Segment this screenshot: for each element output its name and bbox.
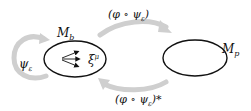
forward-map-label-post: ) — [145, 8, 149, 21]
mb-label: Mb — [57, 27, 74, 42]
xi-label: ξμ — [88, 54, 99, 66]
mp-label-sub: p — [234, 49, 239, 58]
psi-label-sub: ε — [28, 65, 32, 73]
psi-label-main: ψ — [19, 57, 28, 71]
xi-label-sup: μ — [95, 53, 100, 61]
forward-map-label: (φ ∘ ψε) — [108, 9, 149, 23]
pullback-label-post: )* — [152, 93, 162, 106]
vector-field-arrows — [62, 52, 78, 66]
forward-map-label-pre: (φ ∘ ψ — [108, 8, 141, 21]
pullback-arrow — [104, 82, 166, 90]
xi-label-main: ξ — [88, 53, 95, 67]
forward-map-arrow — [100, 22, 166, 35]
pullback-label-pre: (φ ∘ ψ — [115, 93, 148, 106]
mb-label-sub: b — [69, 33, 74, 42]
psi-label: ψε — [19, 58, 32, 73]
forward-map-arrowhead — [158, 20, 172, 33]
manifold-mp-ellipse — [163, 40, 227, 76]
pullback-label: (φ ∘ ψε)* — [115, 94, 162, 108]
mb-label-main: M — [57, 26, 69, 40]
self-loop-arrowhead — [39, 33, 50, 44]
mp-label: Mp — [222, 43, 239, 58]
mp-label-main: M — [222, 42, 234, 56]
